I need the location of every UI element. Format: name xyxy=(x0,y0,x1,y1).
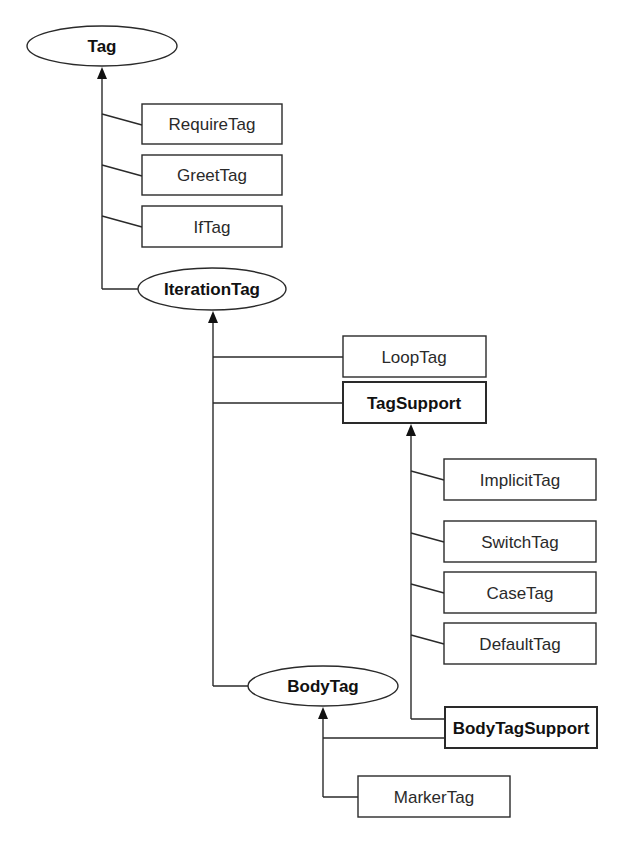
node-bodytagsupport[interactable]: BodyTagSupport xyxy=(445,707,597,748)
node-iterationtag[interactable]: IterationTag xyxy=(138,268,286,310)
node-switchtag[interactable]: SwitchTag xyxy=(444,521,596,562)
edge-implicittag-to-tagsupport xyxy=(411,471,444,480)
node-label: DefaultTag xyxy=(479,635,560,654)
node-tagsupport[interactable]: TagSupport xyxy=(343,382,486,423)
node-label: GreetTag xyxy=(177,166,247,185)
arrowhead-up-icon xyxy=(406,424,416,436)
class-hierarchy-diagram: Tag IterationTag BodyTag RequireTag Gree… xyxy=(0,0,622,851)
node-label: RequireTag xyxy=(169,115,256,134)
node-casetag[interactable]: CaseTag xyxy=(444,572,596,613)
node-label: LoopTag xyxy=(381,348,446,367)
node-label: CaseTag xyxy=(486,584,553,603)
node-label: MarkerTag xyxy=(394,788,474,807)
edge-greettag-to-tag xyxy=(102,165,142,176)
edge-requiretag-to-tag xyxy=(102,114,142,125)
arrowhead-up-icon xyxy=(318,707,328,719)
node-implicittag[interactable]: ImplicitTag xyxy=(444,459,596,500)
edge-iftag-to-tag xyxy=(102,216,142,227)
node-label: IfTag xyxy=(194,218,231,237)
node-label: BodyTagSupport xyxy=(453,719,590,738)
arrowhead-up-icon xyxy=(97,67,107,79)
node-requiretag[interactable]: RequireTag xyxy=(142,104,282,144)
node-label: TagSupport xyxy=(367,394,461,413)
node-defaulttag[interactable]: DefaultTag xyxy=(444,623,596,664)
node-label: IterationTag xyxy=(164,280,260,299)
node-greettag[interactable]: GreetTag xyxy=(142,155,282,195)
node-label: ImplicitTag xyxy=(480,471,560,490)
node-label: Tag xyxy=(88,37,117,56)
node-looptag[interactable]: LoopTag xyxy=(343,336,486,377)
arrowhead-up-icon xyxy=(208,311,218,323)
node-bodytag[interactable]: BodyTag xyxy=(248,666,398,706)
node-markertag[interactable]: MarkerTag xyxy=(358,776,510,817)
edge-casetag-to-tagsupport xyxy=(411,584,444,593)
node-iftag[interactable]: IfTag xyxy=(142,206,282,247)
node-label: SwitchTag xyxy=(481,533,558,552)
edge-switchtag-to-tagsupport xyxy=(411,533,444,542)
edge-defaulttag-to-tagsupport xyxy=(411,635,444,644)
node-label: BodyTag xyxy=(287,677,358,696)
node-tag[interactable]: Tag xyxy=(27,26,177,66)
